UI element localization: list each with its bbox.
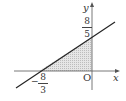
y-intercept-numerator: 8 bbox=[84, 16, 90, 26]
x-intercept-numerator: 8 bbox=[40, 72, 46, 82]
y-axis-label: y bbox=[83, 3, 89, 13]
y-axis-arrow-icon bbox=[90, 2, 94, 7]
y-intercept-fraction: 8 5 bbox=[82, 16, 92, 39]
coordinate-diagram bbox=[0, 0, 126, 101]
origin-label: O bbox=[83, 73, 91, 83]
x-axis-label: x bbox=[113, 73, 119, 83]
y-intercept-denominator: 5 bbox=[84, 29, 90, 39]
x-intercept-denominator: 3 bbox=[40, 85, 46, 95]
x-intercept-fraction: 8 3 bbox=[38, 72, 48, 95]
